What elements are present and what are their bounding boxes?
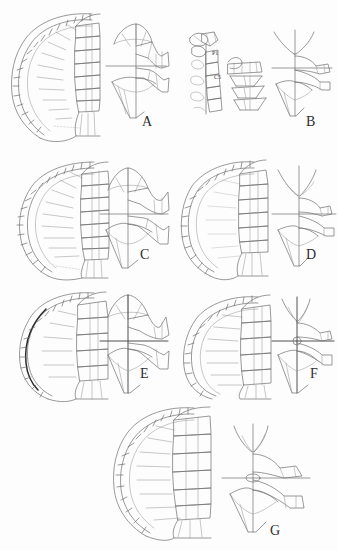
panel-b: P1 C5 B <box>170 0 338 140</box>
shell-elements-drawing-b <box>184 28 274 118</box>
panel-letter-f: F <box>310 367 318 381</box>
panel-letter-c: C <box>140 248 150 262</box>
panel-e: E <box>0 285 170 400</box>
specimen-label-c5: C5 <box>214 74 221 80</box>
panel-d: D <box>170 148 338 278</box>
plastron-drawing-g <box>218 420 314 536</box>
plastron-drawing-b <box>270 28 336 120</box>
plastron-drawing-e <box>98 293 170 397</box>
panel-c: C <box>0 148 170 278</box>
panel-letter-a: A <box>142 115 153 129</box>
panel-a: A <box>0 0 170 140</box>
carapace-drawing-f <box>178 291 274 401</box>
plastron-drawing-a <box>100 22 170 122</box>
figure-plate: A <box>0 0 338 551</box>
plastron-drawing-c <box>98 166 170 272</box>
plastron-drawing-d <box>270 164 338 270</box>
panel-letter-g: G <box>270 524 281 538</box>
panel-letter-b: B <box>306 115 316 129</box>
carapace-drawing-a <box>4 8 104 140</box>
panel-letter-d: D <box>306 248 317 262</box>
plastron-drawing-f <box>270 293 338 397</box>
panel-letter-e: E <box>140 367 149 381</box>
carapace-drawing-d <box>178 156 272 280</box>
panel-f: F <box>170 285 338 400</box>
carapace-drawing-g <box>106 404 216 540</box>
panel-g: G <box>84 398 338 551</box>
specimen-label-p1: P1 <box>212 50 218 56</box>
